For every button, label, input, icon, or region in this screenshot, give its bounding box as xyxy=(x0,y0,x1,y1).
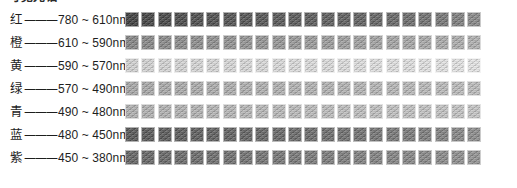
color-swatch xyxy=(206,35,220,50)
color-swatch xyxy=(337,104,351,119)
figure-heading: 可见光谱 xyxy=(8,0,58,4)
swatch-strip xyxy=(125,11,481,28)
spectrum-row: 紫———450 ~ 380nm xyxy=(0,146,517,169)
spectrum-table-figure: 可见光谱 红———780 ~ 610nm橙———610 ~ 590nm黄———5… xyxy=(0,0,517,188)
color-swatch xyxy=(451,81,465,96)
color-swatch xyxy=(435,12,449,27)
color-swatch xyxy=(239,12,253,27)
color-swatch xyxy=(255,35,269,50)
color-swatch xyxy=(402,127,416,142)
color-swatch xyxy=(353,104,367,119)
spectrum-row: 红———780 ~ 610nm xyxy=(0,8,517,31)
color-swatch xyxy=(255,12,269,27)
color-swatch xyxy=(158,58,172,73)
color-swatch xyxy=(190,81,204,96)
wavelength-range: 480 ~ 450nm xyxy=(58,128,130,142)
leader-dashes: ——— xyxy=(24,105,57,119)
color-name: 紫 xyxy=(10,151,23,165)
color-swatch xyxy=(386,150,400,165)
color-swatch xyxy=(158,35,172,50)
color-swatch xyxy=(418,35,432,50)
color-swatch xyxy=(255,58,269,73)
color-swatch xyxy=(141,58,155,73)
color-swatch xyxy=(223,150,237,165)
color-swatch xyxy=(467,81,481,96)
color-swatch xyxy=(467,127,481,142)
color-swatch xyxy=(386,127,400,142)
color-swatch xyxy=(304,104,318,119)
color-swatch xyxy=(141,127,155,142)
spectrum-row: 橙———610 ~ 590nm xyxy=(0,31,517,54)
color-swatch xyxy=(304,58,318,73)
color-swatch xyxy=(304,35,318,50)
color-swatch xyxy=(451,58,465,73)
color-swatch xyxy=(451,104,465,119)
color-swatch xyxy=(158,127,172,142)
color-swatch xyxy=(272,58,286,73)
spectrum-row: 黄———590 ~ 570nm xyxy=(0,54,517,77)
color-name: 蓝 xyxy=(10,128,23,142)
color-swatch xyxy=(174,104,188,119)
spectrum-row: 青———490 ~ 480nm xyxy=(0,100,517,123)
color-swatch xyxy=(125,58,139,73)
color-swatch xyxy=(369,81,383,96)
color-swatch xyxy=(353,150,367,165)
color-swatch xyxy=(206,127,220,142)
color-swatch xyxy=(125,127,139,142)
color-swatch xyxy=(272,81,286,96)
color-swatch xyxy=(451,12,465,27)
color-name: 绿 xyxy=(10,82,23,96)
color-swatch xyxy=(435,104,449,119)
color-swatch xyxy=(288,81,302,96)
color-swatch xyxy=(418,58,432,73)
color-swatch xyxy=(223,81,237,96)
color-swatch xyxy=(337,35,351,50)
color-swatch xyxy=(353,35,367,50)
color-swatch xyxy=(190,35,204,50)
color-swatch xyxy=(141,104,155,119)
color-swatch xyxy=(304,81,318,96)
color-swatch xyxy=(467,12,481,27)
swatch-strip xyxy=(125,57,481,74)
color-swatch xyxy=(386,12,400,27)
color-swatch xyxy=(190,12,204,27)
leader-dashes: ——— xyxy=(24,82,57,96)
row-label: 青———490 ~ 480nm xyxy=(0,105,125,119)
color-swatch xyxy=(321,104,335,119)
color-swatch xyxy=(141,35,155,50)
color-swatch xyxy=(190,104,204,119)
color-swatch xyxy=(353,81,367,96)
color-swatch xyxy=(467,104,481,119)
color-swatch xyxy=(321,150,335,165)
color-swatch xyxy=(288,104,302,119)
wavelength-range: 570 ~ 490nm xyxy=(58,82,130,96)
color-swatch xyxy=(174,81,188,96)
color-swatch xyxy=(418,127,432,142)
color-swatch xyxy=(467,150,481,165)
color-swatch xyxy=(451,35,465,50)
color-swatch xyxy=(435,127,449,142)
color-swatch xyxy=(321,35,335,50)
color-swatch xyxy=(451,127,465,142)
color-swatch xyxy=(255,127,269,142)
color-swatch xyxy=(239,127,253,142)
row-label: 蓝———480 ~ 450nm xyxy=(0,128,125,142)
row-label: 红———780 ~ 610nm xyxy=(0,13,125,27)
color-swatch xyxy=(223,127,237,142)
color-swatch xyxy=(239,81,253,96)
color-swatch xyxy=(206,58,220,73)
color-swatch xyxy=(239,58,253,73)
color-swatch xyxy=(158,150,172,165)
row-label: 紫———450 ~ 380nm xyxy=(0,151,125,165)
color-swatch xyxy=(337,150,351,165)
color-swatch xyxy=(239,150,253,165)
color-swatch xyxy=(125,12,139,27)
color-swatch xyxy=(386,81,400,96)
color-swatch xyxy=(272,104,286,119)
color-swatch xyxy=(272,12,286,27)
color-swatch xyxy=(353,58,367,73)
row-label: 绿———570 ~ 490nm xyxy=(0,82,125,96)
color-swatch xyxy=(255,150,269,165)
color-swatch xyxy=(435,58,449,73)
color-swatch xyxy=(418,81,432,96)
